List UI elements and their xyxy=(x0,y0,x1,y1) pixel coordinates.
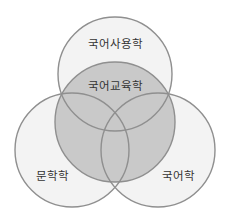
label-right: 국어학 xyxy=(162,169,195,183)
label-center: 국어교육학 xyxy=(88,79,143,93)
venn-diagram: 국어사용학 국어교육학 문학학 국어학 xyxy=(0,0,229,224)
label-top: 국어사용학 xyxy=(88,37,143,51)
label-left: 문학학 xyxy=(36,169,69,183)
